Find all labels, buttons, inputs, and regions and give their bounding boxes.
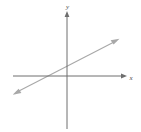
coordinate-plane-figure: x y <box>0 0 141 132</box>
graph-canvas: x y <box>0 0 141 132</box>
figure-background <box>0 0 141 132</box>
